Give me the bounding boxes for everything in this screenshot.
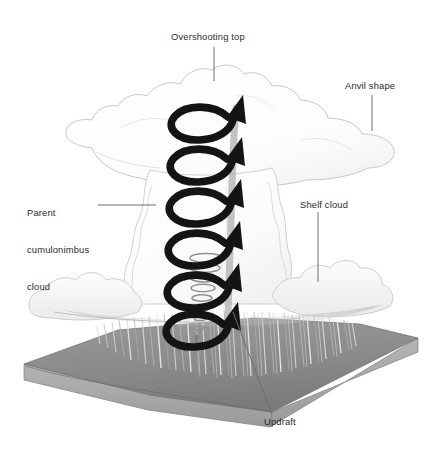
label-parent-cumulonimbus-cloud: Parent cumulonimbus cloud — [27, 183, 89, 305]
label-anvil-shape: Anvil shape — [345, 80, 395, 92]
label-updraft: Updraft — [264, 416, 296, 428]
label-parent-cloud-line-3: cloud — [27, 281, 89, 293]
label-parent-cloud-line-1: Parent — [27, 207, 89, 219]
label-parent-cloud-line-2: cumulonimbus — [27, 244, 89, 256]
label-shelf-cloud: Shelf cloud — [300, 199, 348, 211]
label-overshooting-top: Overshooting top — [171, 31, 245, 43]
